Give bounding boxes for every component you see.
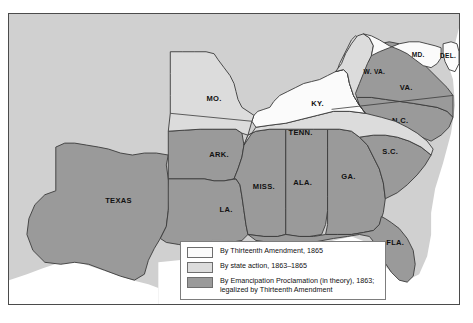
- map-figure: TEXAS ARK. LA. MISS. ALA.: [0, 0, 473, 323]
- legend-label-emancipation-proclamation: By Emancipation Proclamation (in theory)…: [220, 277, 374, 294]
- state-louisiana: LA.: [160, 179, 248, 247]
- state-label-florida: FLA.: [386, 238, 404, 247]
- state-label-louisiana: LA.: [219, 205, 232, 214]
- legend-swatch-emancipation-proclamation: [187, 277, 213, 288]
- legend-swatch-thirteenth-amendment: [187, 247, 213, 258]
- legend-swatch-state-action: [187, 262, 213, 273]
- state-label-west-virginia: W. VA.: [364, 68, 386, 75]
- state-label-texas: TEXAS: [105, 196, 132, 205]
- state-missouri: MO.: [168, 52, 254, 135]
- legend-item-emancipation-proclamation: By Emancipation Proclamation (in theory)…: [187, 277, 379, 294]
- state-label-maryland: MD.: [412, 51, 425, 58]
- state-label-alabama: ALA.: [293, 178, 312, 187]
- state-label-arkansas: ARK.: [209, 150, 229, 159]
- state-alabama: ALA.: [286, 129, 328, 236]
- state-arkansas: ARK.: [168, 129, 244, 181]
- legend-label-state-action: By state action, 1863–1865: [220, 262, 307, 271]
- map-legend: By Thirteenth Amendment, 1865 By state a…: [180, 241, 386, 300]
- state-label-mississippi: MISS.: [253, 182, 275, 191]
- legend-item-state-action: By state action, 1863–1865: [187, 262, 379, 273]
- state-texas: TEXAS: [27, 143, 170, 280]
- state-label-kentucky: KY.: [311, 99, 324, 108]
- state-label-georgia: GA.: [341, 172, 355, 181]
- state-label-missouri: MO.: [207, 94, 222, 103]
- legend-item-thirteenth-amendment: By Thirteenth Amendment, 1865: [187, 247, 379, 258]
- state-label-south-carolina: S.C.: [382, 147, 398, 156]
- state-label-virginia: VA.: [400, 83, 413, 92]
- state-label-delaware: DEL.: [440, 52, 456, 59]
- state-label-tennessee: TENN.: [289, 128, 313, 137]
- legend-label-thirteenth-amendment: By Thirteenth Amendment, 1865: [220, 247, 323, 256]
- state-delaware: DEL.: [440, 42, 459, 72]
